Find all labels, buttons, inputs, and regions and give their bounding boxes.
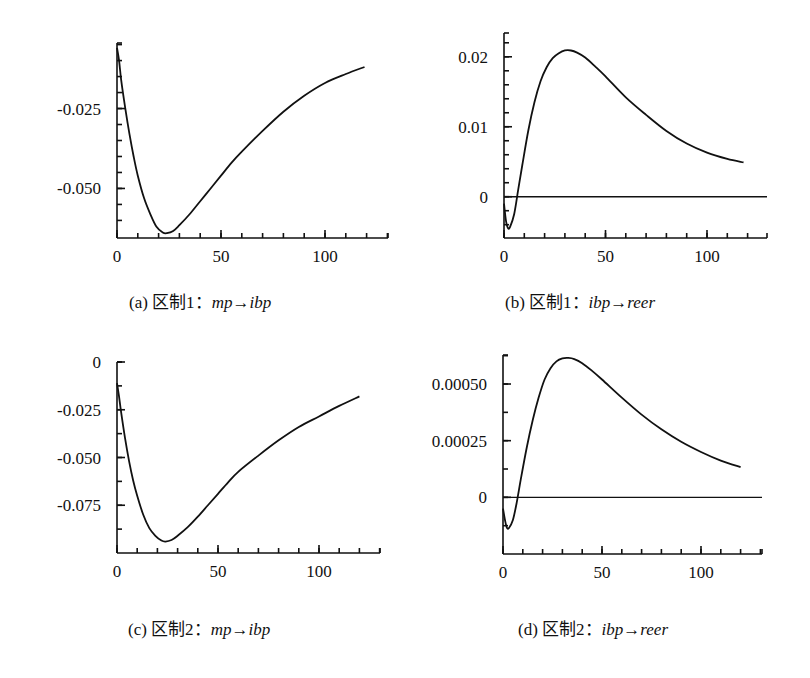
y-tick-label: 0.00050 (432, 375, 487, 394)
chart-d-plot: 00.000250.00050050100 (0, 0, 810, 678)
y-tick-label: 0.00025 (432, 432, 487, 451)
caption-label: (d) 区制2： (518, 620, 602, 639)
chart-d-caption: (d) 区制2：ibp→reer (518, 615, 668, 640)
y-tick-label: 0 (479, 488, 488, 507)
x-tick-label: 50 (594, 563, 611, 582)
x-tick-label: 100 (688, 563, 714, 582)
caption-math: ibp→reer (602, 620, 668, 639)
x-tick-label: 0 (499, 563, 508, 582)
impulse-response-line (503, 358, 741, 529)
